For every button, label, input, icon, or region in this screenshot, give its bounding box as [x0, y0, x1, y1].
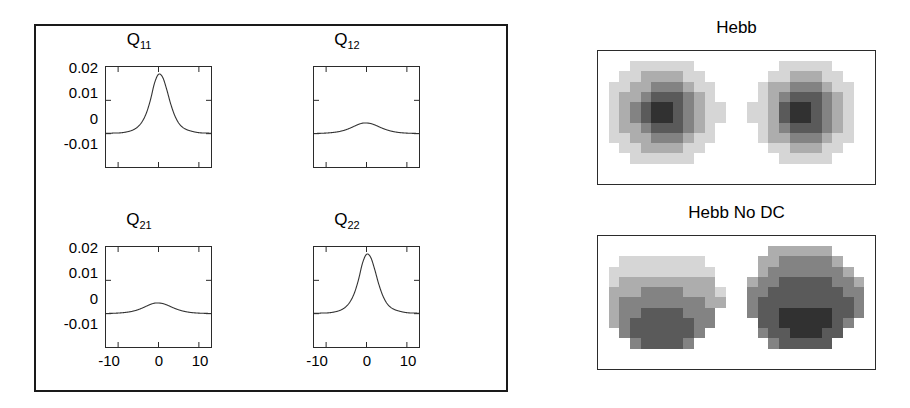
- heatmap-hebb-no-dc: [598, 236, 875, 369]
- left-figure-panel: Q11 0.02 0.01 0 -0.01 Q12 Q21 0.02 0.01 …: [34, 24, 508, 392]
- plot-curve-q12: [314, 67, 419, 167]
- xtick-q21-0: -10: [89, 352, 129, 369]
- subplot-title-q22-sub: 22: [347, 219, 359, 231]
- subplot-title-q12: Q12: [292, 30, 402, 50]
- axes-q21: [105, 246, 212, 348]
- ytick-q21-2: 0: [44, 290, 98, 307]
- subplot-title-q21-main: Q: [126, 210, 139, 229]
- subplot-title-q11-main: Q: [127, 30, 140, 49]
- axes-q22: [313, 246, 420, 348]
- xtick-q21-2: 10: [180, 352, 220, 369]
- ytick-q21-0: 0.02: [44, 239, 98, 256]
- ytick-q11-3: -0.01: [40, 135, 98, 152]
- axes-q11: [105, 66, 212, 168]
- subplot-title-q12-sub: 12: [347, 39, 359, 51]
- axes-q12: [313, 66, 420, 168]
- subplot-title-q12-main: Q: [334, 30, 347, 49]
- heatmap-hebb: [598, 51, 875, 184]
- plot-curve-q21: [106, 247, 211, 347]
- ytick-q21-3: -0.01: [40, 315, 98, 332]
- xtick-q22-0: -10: [297, 352, 337, 369]
- subplot-title-q11-sub: 11: [140, 39, 151, 51]
- ytick-q21-1: 0.01: [44, 264, 98, 281]
- panel-title-hebb: Hebb: [597, 18, 876, 38]
- plot-curve-q22: [314, 247, 419, 347]
- ytick-q11-2: 0: [44, 110, 98, 127]
- xtick-q21-1: 0: [139, 352, 179, 369]
- xtick-q22-1: 0: [347, 352, 387, 369]
- subplot-title-q11: Q11: [84, 30, 194, 50]
- plot-curve-q11: [106, 67, 211, 167]
- subplot-title-q21-sub: 21: [139, 219, 151, 231]
- xtick-q22-2: 10: [388, 352, 428, 369]
- subplot-title-q22-main: Q: [334, 210, 347, 229]
- ytick-q11-1: 0.01: [44, 84, 98, 101]
- subplot-title-q21: Q21: [84, 210, 194, 230]
- panel-title-hebb-no-dc: Hebb No DC: [597, 203, 876, 223]
- ytick-q11-0: 0.02: [44, 59, 98, 76]
- subplot-title-q22: Q22: [292, 210, 402, 230]
- image-panel-hebb: [597, 50, 876, 185]
- image-panel-hebb-no-dc: [597, 235, 876, 370]
